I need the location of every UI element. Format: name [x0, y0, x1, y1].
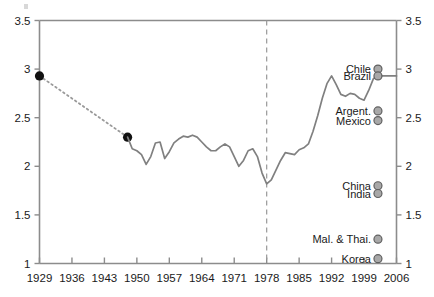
- y-axis-label-left: 3.5: [15, 15, 31, 27]
- country-marker-china: [374, 182, 382, 190]
- y-axis-label-right: 1.5: [406, 209, 422, 221]
- y-axis-label-right: 2.5: [406, 112, 422, 124]
- x-axis-label: 1964: [189, 272, 215, 284]
- country-label-mexico: Mexico: [336, 115, 371, 127]
- x-axis-label: 1978: [254, 272, 280, 284]
- y-axis-label-left: 2: [24, 160, 30, 172]
- x-axis-label: 1936: [59, 272, 85, 284]
- country-marker-korea: [374, 255, 382, 263]
- country-marker-mexico: [374, 117, 382, 125]
- x-axis-label: 1943: [92, 272, 118, 284]
- y-axis-label-left: 2.5: [15, 112, 31, 124]
- series-early-dotted-segment: [40, 76, 128, 137]
- x-axis-label: 2006: [384, 272, 410, 284]
- y-axis-label-right: 2: [406, 160, 412, 172]
- country-marker-india: [374, 190, 382, 198]
- x-axis-label: 1985: [286, 272, 312, 284]
- y-axis-label-left: 1.5: [15, 209, 31, 221]
- x-axis-label: 1999: [351, 272, 377, 284]
- y-axis-label-left: 3: [24, 63, 30, 75]
- y-axis-label-right: 3: [406, 63, 412, 75]
- country-marker-mal-thai: [374, 235, 382, 243]
- x-axis-label: 1971: [221, 272, 247, 284]
- y-axis-label-right: 1: [406, 258, 412, 270]
- line-chart: 111.51.5222.52.5333.53.51929193619431950…: [0, 0, 434, 297]
- country-label-india: India: [347, 188, 372, 200]
- chart-container: 111.51.5222.52.5333.53.51929193619431950…: [0, 0, 434, 297]
- series-main-series: [128, 76, 397, 184]
- x-axis-label: 1992: [319, 272, 345, 284]
- y-axis-label-right: 3.5: [406, 15, 422, 27]
- y-axis-label-left: 1: [24, 258, 30, 270]
- scan-artifact-speck: [24, 4, 28, 9]
- country-label-korea: Korea: [342, 253, 372, 265]
- country-label-mal-thai: Mal. & Thai.: [312, 233, 371, 245]
- country-marker-argent: [374, 107, 382, 115]
- country-marker-brazil: [374, 72, 382, 80]
- data-point-marker: [35, 71, 44, 80]
- x-axis-label: 1929: [27, 272, 53, 284]
- x-axis-label: 1950: [124, 272, 150, 284]
- x-axis-label: 1957: [157, 272, 183, 284]
- country-label-brazil: Brazil: [343, 70, 371, 82]
